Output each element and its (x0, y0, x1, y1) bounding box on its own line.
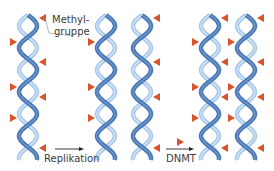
helix-parent (19, 15, 37, 160)
methyl-group-icon (221, 58, 228, 66)
replication-label: Replikation (44, 153, 99, 164)
methyl-group-icon (192, 83, 199, 91)
helix-remethylated-1 (201, 15, 219, 160)
methyl-group-icon (228, 83, 235, 91)
methyl-group-icon (39, 14, 46, 22)
methyl-group-icon (10, 83, 17, 91)
methyl-group-icon (257, 93, 264, 101)
methyl-group-icon (10, 38, 17, 46)
methyl-group-icon (39, 144, 46, 152)
methyl-group-icon (221, 144, 228, 152)
methyl-group-icon (192, 114, 199, 122)
methyl-group-icon (257, 144, 264, 152)
methyl-group-icon (153, 14, 160, 22)
methyl-label-line2: gruppe (54, 26, 90, 37)
replication-arrowhead-icon (79, 147, 84, 151)
methyl-group-icon (10, 114, 17, 122)
helix-remethylated-2 (237, 15, 255, 160)
methyl-group-icon (192, 38, 199, 46)
methyl-group-icon (88, 114, 95, 122)
methyl-group-icon (228, 114, 235, 122)
helix-daughter-2 (133, 15, 151, 160)
methyl-group-icon (257, 58, 264, 66)
methyl-group-icon (39, 58, 46, 66)
dnmt-label: DNMT (166, 153, 196, 164)
free-methyl-group-icon (177, 138, 184, 146)
helix-artwork (0, 0, 274, 171)
dnmt-arrowhead-icon (189, 147, 194, 151)
methyl-group-icon (153, 58, 160, 66)
methyl-group-icon (153, 93, 160, 101)
methyl-group-icon (221, 14, 228, 22)
methyl-group-icon (88, 38, 95, 46)
methyl-group-icon (228, 38, 235, 46)
methyl-group-icon (88, 83, 95, 91)
dna-methylation-diagram: Methyl- gruppe Replikation DNMT (0, 0, 274, 171)
methyl-group-icon (39, 93, 46, 101)
methyl-label-line1: Methyl- (52, 14, 89, 25)
methyl-group-icon (153, 144, 160, 152)
methyl-group-icon (257, 14, 264, 22)
helix-daughter-1 (97, 15, 115, 160)
methyl-group-icon (221, 93, 228, 101)
